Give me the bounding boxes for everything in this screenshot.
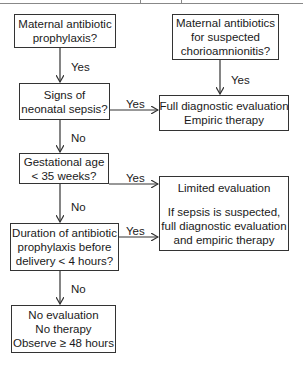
node-text: No evaluation	[28, 308, 98, 322]
edge-label-yes: Yes	[126, 172, 145, 184]
node-text: Observe ≥ 48 hours	[13, 336, 114, 350]
node-text: for suspected	[191, 30, 260, 44]
node-text: Duration of antibiotic	[12, 226, 117, 240]
node-text: Empiric therapy	[184, 113, 264, 127]
node-text: prophylaxis before	[18, 240, 112, 254]
edge-label-no: No	[71, 201, 86, 213]
node-text: delivery < 4 hours?	[16, 254, 114, 268]
node-limited-evaluation: Limited evaluation If sepsis is suspecte…	[159, 176, 289, 251]
node-text: Maternal antibiotic	[18, 17, 111, 31]
node-full-evaluation: Full diagnostic evaluation Empiric thera…	[159, 95, 289, 131]
edge-label-yes: Yes	[71, 61, 90, 73]
node-text: Limited evaluation	[178, 181, 271, 195]
node-prophylaxis-duration: Duration of antibiotic prophylaxis befor…	[10, 223, 119, 271]
edge-label-yes: Yes	[126, 225, 145, 237]
node-text: No therapy	[35, 322, 91, 336]
node-maternal-chorioamnionitis: Maternal antibiotics for suspected chori…	[172, 14, 279, 60]
node-gestational-age: Gestational age < 35 weeks?	[19, 153, 109, 184]
node-text: < 35 weeks?	[32, 169, 97, 183]
node-text: chorioamnionitis?	[181, 44, 271, 58]
node-text: If sepsis is suspected,	[168, 205, 281, 219]
node-maternal-prophylaxis: Maternal antibiotic prophylaxis?	[14, 14, 116, 48]
node-text: neonatal sepsis?	[21, 102, 107, 116]
edge-label-no: No	[71, 132, 86, 144]
node-no-evaluation: No evaluation No therapy Observe ≥ 48 ho…	[11, 305, 116, 353]
node-text: Maternal antibiotics	[176, 16, 275, 30]
node-text: and empiric therapy	[174, 233, 275, 247]
node-text: full diagnostic evaluation	[161, 219, 286, 233]
node-text: Signs of	[44, 88, 86, 102]
node-text: Full diagnostic evaluation	[159, 99, 288, 113]
edge-label-no: No	[71, 283, 86, 295]
edge-label-yes: Yes	[231, 74, 250, 86]
node-signs-of-sepsis: Signs of neonatal sepsis?	[19, 83, 110, 120]
edge-label-yes: Yes	[126, 98, 145, 110]
node-text: Gestational age	[24, 155, 105, 169]
node-text: prophylaxis?	[33, 31, 98, 45]
